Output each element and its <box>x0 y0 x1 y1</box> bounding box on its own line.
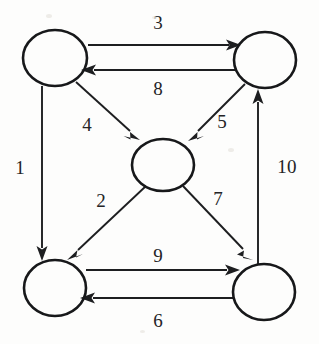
node-top-left[interactable] <box>23 30 87 86</box>
node-bottom-left[interactable] <box>24 260 86 316</box>
edge-label-4: 4 <box>82 115 92 134</box>
scan-speck <box>228 148 234 152</box>
node-center[interactable] <box>132 139 194 191</box>
graph-svg <box>0 0 319 344</box>
node-bottom-right[interactable] <box>233 264 295 320</box>
edge-label-8: 8 <box>153 79 163 98</box>
node-top-right[interactable] <box>234 32 296 88</box>
edge-3-arrow <box>88 40 241 51</box>
edge-1-arrow <box>37 86 48 261</box>
edge-6-arrow <box>80 293 234 304</box>
scan-speck <box>140 330 145 333</box>
edge-2-arrow <box>67 186 146 260</box>
edge-10-arrow <box>253 89 264 265</box>
edge-label-5: 5 <box>217 112 227 131</box>
edge-label-1: 1 <box>15 158 25 177</box>
edge-label-2: 2 <box>96 191 106 210</box>
edge-9-arrow <box>86 265 240 276</box>
edge-8-arrow <box>81 65 235 76</box>
edge-label-10: 10 <box>277 157 296 176</box>
edge-label-9: 9 <box>153 246 163 265</box>
scan-speck <box>46 14 52 18</box>
edge-label-7: 7 <box>213 189 223 208</box>
diagram-canvas: 1 2 3 4 5 6 7 8 9 10 <box>0 0 319 344</box>
scan-speck <box>152 16 157 19</box>
edge-label-6: 6 <box>153 311 163 330</box>
